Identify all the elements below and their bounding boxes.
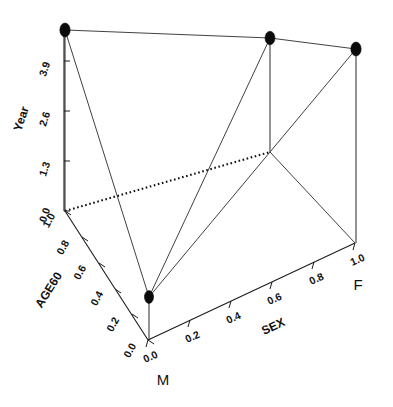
tick-age-0: [148, 340, 154, 344]
vertical-stems: [65, 30, 356, 340]
tick-label-age-04: 0.4: [88, 289, 106, 308]
axis-sex-ticks: [146, 243, 355, 347]
tick-label-sex-1: 1.0: [348, 251, 366, 268]
axis-title-age60: AGE60: [32, 269, 65, 310]
base-edge-right: [270, 152, 355, 243]
plot-canvas: 3.9 2.6 1.3 0.0 Year 1.0 0.8 0.6 0.4 0.2…: [0, 0, 393, 407]
tick-label-year-3: 3.9: [36, 60, 52, 78]
data-point[interactable]: [60, 23, 70, 37]
box-edge-left-diag: [65, 30, 149, 297]
tick-label-sex-06: 0.6: [265, 290, 283, 307]
tick-label-sex-08: 0.8: [307, 270, 325, 287]
dotted-reference-line: [65, 152, 270, 211]
tick-label-sex-02: 0.2: [183, 328, 201, 345]
tick-label-year-1: 1.3: [36, 160, 52, 178]
axis-title-sex: SEX: [259, 315, 287, 338]
box-edge-top-right: [270, 38, 356, 49]
sex-tick-labels: 0.0 0.2 0.4 0.6 0.8 1.0: [141, 251, 366, 365]
year-tick-labels: 3.9 2.6 1.3 0.0: [36, 60, 52, 224]
box-edge-top-back: [65, 30, 270, 38]
tick-sex-0: [146, 340, 148, 347]
tick-label-sex-0: 0.0: [141, 348, 159, 365]
tick-label-age-06: 0.6: [71, 263, 89, 282]
tick-label-age-0: 0.0: [121, 341, 139, 360]
scatter-plot-3d: 3.9 2.6 1.3 0.0 Year 1.0 0.8 0.6 0.4 0.2…: [0, 0, 393, 407]
box-frame: [65, 30, 356, 297]
base-plane: [65, 152, 355, 340]
axis-title-year: Year: [11, 104, 32, 133]
tick-label-sex-04: 0.4: [224, 309, 242, 326]
data-point[interactable]: [265, 31, 275, 45]
data-point[interactable]: [351, 42, 361, 56]
tick-label-age-08: 0.8: [54, 238, 72, 257]
endpoint-label-male: M: [157, 371, 170, 388]
box-edge-front-diag: [149, 49, 356, 297]
box-edge-back-to-front: [149, 38, 270, 297]
data-point[interactable]: [144, 291, 153, 304]
endpoint-label-female: F: [353, 276, 362, 293]
tick-label-age-02: 0.2: [104, 315, 122, 334]
axis-sex-line: [148, 243, 355, 340]
tick-label-year-2: 2.6: [36, 110, 52, 128]
